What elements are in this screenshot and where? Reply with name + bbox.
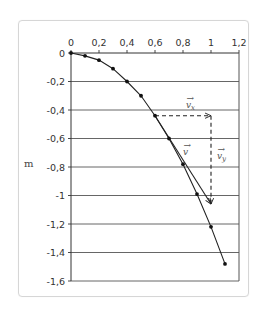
x-tick-label: 0 bbox=[68, 37, 74, 48]
axes bbox=[68, 50, 239, 281]
y-tick-label: -1,2 bbox=[46, 219, 65, 230]
data-point bbox=[181, 162, 185, 166]
y-tick-label: -1,4 bbox=[46, 247, 65, 258]
x-tick-label: 1 bbox=[208, 37, 214, 48]
data-point bbox=[83, 54, 87, 58]
data-point bbox=[223, 262, 227, 266]
gridlines bbox=[71, 82, 239, 282]
vector-vy-label-arrow-accent: → bbox=[218, 144, 226, 154]
data-point bbox=[195, 192, 199, 196]
x-tick-label: 1,2 bbox=[231, 37, 246, 48]
data-point bbox=[125, 80, 129, 84]
data-point bbox=[97, 58, 101, 62]
data-point bbox=[69, 51, 73, 55]
y-tick-label: 0 bbox=[59, 48, 65, 59]
y-tick-labels: 0-0,2-0,4-0,6-0,8-1-1,2-1,4-1,6 bbox=[46, 48, 65, 287]
x-tick-labels: 00,20,40,60,811,2 bbox=[68, 37, 247, 48]
x-tick-label: 0,6 bbox=[147, 37, 162, 48]
x-tick-label: 0,8 bbox=[175, 37, 190, 48]
data-point bbox=[209, 225, 213, 229]
x-tick-label: 0,4 bbox=[119, 37, 134, 48]
trajectory-series bbox=[69, 51, 227, 266]
y-tick-label: -0,2 bbox=[46, 76, 65, 87]
y-tick-label: -0,4 bbox=[46, 105, 65, 116]
data-point bbox=[139, 94, 143, 98]
data-point bbox=[167, 137, 171, 141]
data-point bbox=[111, 67, 115, 71]
trajectory-chart: 00,20,40,60,811,2 0-0,2-0,4-0,6-0,8-1-1,… bbox=[0, 0, 269, 316]
vector-vx-label-arrow-accent: → bbox=[187, 93, 195, 103]
y-tick-label: -1 bbox=[56, 190, 65, 201]
x-tick-label: 0,2 bbox=[91, 37, 106, 48]
vector-v-label-arrow-accent: → bbox=[184, 140, 192, 150]
data-point bbox=[153, 114, 157, 118]
y-tick-label: -1,6 bbox=[46, 276, 65, 287]
y-axis-unit-label: m bbox=[24, 158, 34, 169]
y-tick-label: -0,8 bbox=[46, 162, 65, 173]
trajectory-line bbox=[71, 53, 225, 264]
y-tick-label: -0,6 bbox=[46, 133, 65, 144]
